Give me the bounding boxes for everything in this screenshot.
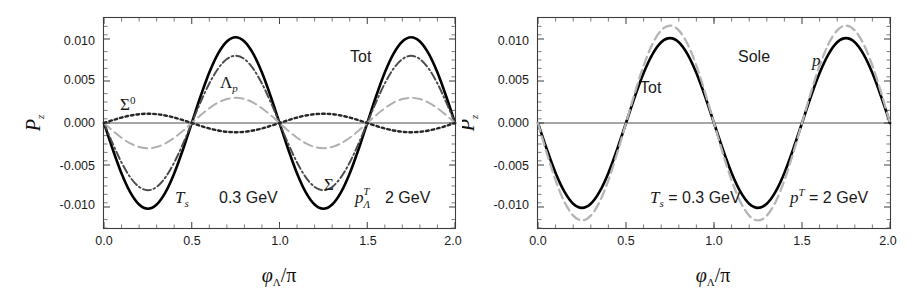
left-annot-Ts-value: 0.3 GeV xyxy=(219,189,278,206)
right-annot-sole: Sole xyxy=(738,48,770,65)
left-annot-sigma: Σ xyxy=(324,175,334,194)
left-annot-sigma0-sup: 0 xyxy=(130,94,136,106)
left-xtick-1.0: 1.0 xyxy=(271,234,288,248)
left-xtick-1.5: 1.5 xyxy=(359,234,376,248)
left-y-axis-title: Pz xyxy=(22,114,46,132)
left-xtick-0.0: 0.0 xyxy=(95,234,112,248)
right-xtick-0.5: 0.5 xyxy=(617,234,634,248)
right-ytick-0.000: 0.000 xyxy=(498,116,529,130)
left-x-axis-slashpi: /π xyxy=(281,264,297,286)
right-ytick-0.010: 0.010 xyxy=(498,34,529,48)
right-annot-Ts-rest: = 0.3 GeV xyxy=(664,189,741,206)
right-ytick--0.010: -0.010 xyxy=(494,198,529,212)
right-annot-pT-rest: = 2 GeV xyxy=(805,189,869,206)
right-x-axis-lambda: Λ xyxy=(707,276,715,288)
left-annot-sigma0: Σ0 xyxy=(120,94,136,114)
chart-panel-left: 0.010 0.005 0.000 -0.005 -0.010 0.0 0.5 … xyxy=(0,0,462,298)
left-annot-pT-sub: Λ xyxy=(363,198,371,210)
right-annot-pT-base: p xyxy=(789,188,799,207)
right-y-axis-title-sub: z xyxy=(468,114,480,120)
right-annot-p: p xyxy=(811,51,821,70)
left-x-axis-lambda: Λ xyxy=(273,276,281,288)
right-xtick-2.0: 2.0 xyxy=(879,234,896,248)
right-x-axis-phi: φ xyxy=(696,264,707,287)
right-annot-Ts-eq: Ts = 0.3 GeV xyxy=(650,188,741,209)
right-ytick-0.005: 0.005 xyxy=(498,73,529,87)
left-y-axis-title-sub: z xyxy=(34,114,46,120)
left-ytick-0.010: 0.010 xyxy=(64,34,95,48)
svg-text:Pz: Pz xyxy=(462,114,480,132)
left-plot-svg: 0.010 0.005 0.000 -0.005 -0.010 0.0 0.5 … xyxy=(0,0,462,298)
left-annot-pT-value: 2 GeV xyxy=(385,189,431,206)
right-plot-svg: 0.010 0.005 0.000 -0.005 -0.010 0.0 0.5 … xyxy=(462,0,923,298)
left-annot-pT-base: p xyxy=(354,188,364,207)
left-annot-sigma0-base: Σ xyxy=(120,95,130,114)
left-annot-pT: pΛT xyxy=(354,185,371,210)
left-annot-lambda-sub: p xyxy=(231,82,238,94)
chart-panel-right: 0.010 0.005 0.000 -0.005 -0.010 0.0 0.5 … xyxy=(462,0,923,298)
svg-text:Pz: Pz xyxy=(22,114,46,132)
left-x-axis-title: φΛ/π xyxy=(262,264,297,288)
left-annot-pT-sup: T xyxy=(363,185,370,197)
right-xtick-0.0: 0.0 xyxy=(529,234,546,248)
left-ytick--0.010: -0.010 xyxy=(60,198,95,212)
left-xtick-2.0: 2.0 xyxy=(444,234,461,248)
left-annot-Ts-sub: s xyxy=(184,197,188,209)
right-ytick--0.005: -0.005 xyxy=(494,159,529,173)
right-xtick-1.5: 1.5 xyxy=(793,234,810,248)
left-annot-lambda-base: Λ xyxy=(220,73,233,92)
left-annot-tot: Tot xyxy=(350,48,372,65)
right-xtick-1.0: 1.0 xyxy=(705,234,722,248)
right-annot-tot: Tot xyxy=(640,79,662,96)
left-x-axis-phi: φ xyxy=(262,264,273,287)
left-ytick-0.005: 0.005 xyxy=(64,73,95,87)
left-annot-Ts: Ts xyxy=(175,188,189,209)
right-y-axis-title: Pz xyxy=(462,114,480,132)
left-xtick-0.5: 0.5 xyxy=(183,234,200,248)
right-x-axis-title: φΛ/π xyxy=(696,264,731,288)
left-ytick--0.005: -0.005 xyxy=(60,159,95,173)
left-y-axis-title-base: P xyxy=(22,119,44,132)
left-ytick-0.000: 0.000 xyxy=(64,116,95,130)
right-y-axis-title-base: P xyxy=(462,119,478,132)
right-annot-pT-eq: pT = 2 GeV xyxy=(789,186,869,207)
right-x-axis-slashpi: /π xyxy=(715,264,731,286)
left-annot-lambda-p: Λp xyxy=(220,73,238,94)
two-panel-figure: 0.010 0.005 0.000 -0.005 -0.010 0.0 0.5 … xyxy=(0,0,923,298)
